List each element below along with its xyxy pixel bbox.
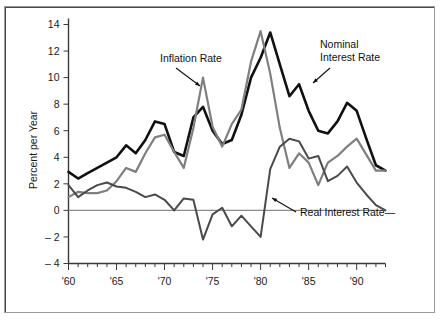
annotations-group: Inflation RateNominalInterest RateReal I… [160, 38, 396, 218]
x-tick-label-1960: '60 [62, 275, 76, 287]
x-tick-label-1970: '70 [158, 275, 172, 287]
y-tick-label-14: 14 [48, 18, 60, 30]
chart-canvas: – 4– 202468101214 '60'65'70'75'80'85'90 … [0, 0, 443, 321]
x-tick-label-1965: '65 [110, 275, 124, 287]
y-tick-label-0: 0 [54, 204, 60, 216]
y-axis-title-text: Percent per Year [27, 110, 39, 189]
x-tick-labels: '60'65'70'75'80'85'90 [62, 275, 364, 287]
series-line-real-interest-rate [69, 139, 386, 240]
y-tick-label-2: 2 [54, 178, 60, 190]
y-tick-label-6: 6 [54, 125, 60, 137]
x-tick-label-1985: '85 [302, 275, 316, 287]
y-tick-label-8: 8 [54, 98, 60, 110]
y-tick-label--2: – 2 [45, 231, 60, 243]
y-tick-label-4: 4 [54, 151, 60, 163]
x-tick-label-1990: '90 [350, 275, 364, 287]
x-tick-label-1980: '80 [254, 275, 268, 287]
annotation-nominal-line2: Interest Rate [320, 51, 380, 63]
y-tick-label--4: – 4 [45, 257, 60, 269]
annotation-real-arrow-head [272, 198, 277, 202]
annotation-real-interest-rate: Real Interest Rate— [300, 206, 396, 218]
y-tick-labels: – 4– 202468101214 [45, 18, 60, 269]
annotation-nominal-line1: Nominal [320, 38, 359, 50]
x-tick-label-1975: '75 [206, 275, 220, 287]
y-axis-title: Percent per Year [27, 110, 39, 189]
y-tick-label-12: 12 [48, 45, 60, 57]
annotation-inflation-rate: Inflation Rate [160, 52, 222, 64]
y-tick-label-10: 10 [48, 71, 60, 83]
chart-figure: – 4– 202468101214 '60'65'70'75'80'85'90 … [0, 0, 443, 321]
